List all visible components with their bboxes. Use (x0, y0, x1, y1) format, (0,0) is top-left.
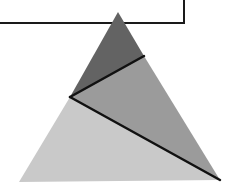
diagram-canvas (0, 0, 229, 192)
box-outline (0, 0, 184, 23)
triangle-diagram (0, 0, 229, 192)
